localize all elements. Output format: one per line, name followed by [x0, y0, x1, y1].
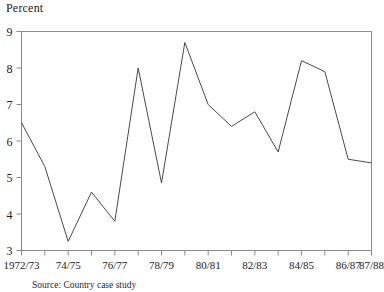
series-line	[22, 42, 372, 241]
x-axis-tick-label: 78/79	[149, 259, 175, 271]
x-axis-tick-label: 74/75	[56, 259, 82, 271]
x-axis-tick-label: 84/85	[289, 259, 315, 271]
y-axis-tick-label: 8	[7, 62, 13, 76]
y-axis-tick-label: 4	[7, 208, 13, 222]
y-axis-tick-label: 3	[7, 244, 13, 258]
x-axis-tick-labels: 1972/7374/7576/7778/7980/8182/8384/8586/…	[3, 259, 384, 271]
x-axis-tick-label: 87/88	[359, 259, 384, 271]
x-axis-tick-label: 76/77	[102, 259, 128, 271]
chart-axes	[22, 32, 372, 251]
y-axis-tick-labels: 3456789	[7, 25, 13, 258]
y-axis-tick-label: 5	[7, 171, 13, 185]
source-note: Source: Country case study	[32, 280, 136, 291]
y-axis-ticks	[17, 32, 22, 251]
chart-page: Percent 1972/7374/7576/7778/7980/8182/83…	[0, 0, 384, 292]
line-chart: 1972/7374/7576/7778/7980/8182/8384/8586/…	[0, 0, 384, 292]
x-axis-tick-label: 86/87	[336, 259, 362, 271]
x-axis-ticks	[22, 251, 372, 256]
x-axis-tick-label: 82/83	[242, 259, 268, 271]
x-axis-tick-label: 1972/73	[3, 259, 40, 271]
y-axis-tick-label: 9	[7, 25, 13, 39]
data-series	[22, 42, 372, 241]
y-axis-tick-label: 7	[7, 98, 13, 112]
y-axis-tick-label: 6	[7, 135, 13, 149]
x-axis-tick-label: 80/81	[196, 259, 221, 271]
